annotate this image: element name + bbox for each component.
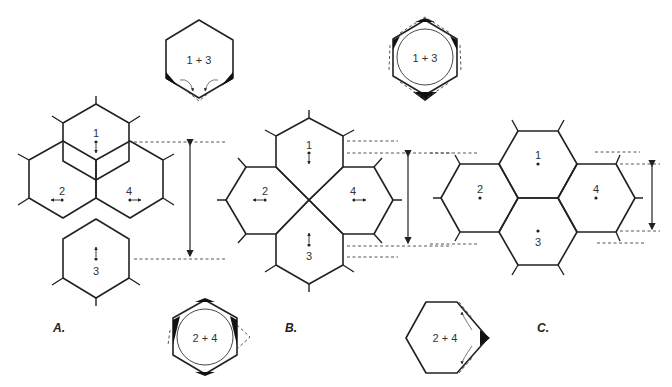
cell-number: 3 [306, 250, 312, 262]
cell-number: 4 [350, 185, 356, 197]
inset-2-plus-4-a: 2 + 4 [168, 298, 250, 376]
inset-label: 2 + 4 [193, 332, 218, 344]
inset-1-plus-3-b: 1 + 3 [389, 17, 461, 101]
panel-label: B. [285, 321, 297, 335]
panel-c: 1 2 3 4 C. [430, 120, 660, 335]
cell-number: 3 [535, 236, 541, 248]
inset-label: 2 + 4 [433, 332, 458, 344]
inset-2-plus-4-b: 2 + 4 [406, 302, 490, 373]
cell-number: 2 [477, 183, 483, 195]
inset-label: 1 + 3 [413, 52, 438, 64]
hexagon-cell-diagram: 1 + 3 1 + 3 2 + 4 2 + 4 [0, 0, 672, 387]
cell-number: 1 [93, 127, 99, 139]
panel-label: A. [52, 321, 65, 335]
cell-number: 1 [535, 149, 541, 161]
panel-label: C. [537, 321, 549, 335]
cell-number: 4 [126, 185, 132, 197]
inset-1-plus-3-a: 1 + 3 [166, 20, 233, 101]
cell-number: 2 [262, 185, 268, 197]
panel-a: 1 2 3 4 A. [18, 96, 225, 335]
cell-number: 2 [59, 185, 65, 197]
panel-b: 1 2 3 4 B. [217, 110, 452, 335]
cell-number: 1 [306, 139, 312, 151]
wedge-right [221, 72, 233, 86]
cell-number: 3 [93, 265, 99, 277]
inset-label: 1 + 3 [187, 54, 212, 66]
cell-number: 4 [593, 183, 599, 195]
wedge-left [166, 72, 178, 86]
